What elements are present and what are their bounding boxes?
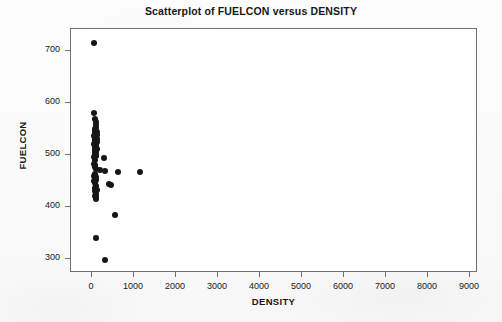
x-axis-tick	[427, 272, 428, 277]
x-axis-tick-label: 6000	[323, 281, 363, 291]
x-axis-tick-label: 8000	[407, 281, 447, 291]
y-axis-tick-label: 700	[24, 44, 60, 54]
x-axis-tick	[469, 272, 470, 277]
x-axis-tick	[175, 272, 176, 277]
x-axis-tick	[385, 272, 386, 277]
x-axis-tick	[259, 272, 260, 277]
y-axis-tick	[65, 50, 70, 51]
y-axis-title: FUELCON	[17, 106, 28, 186]
x-axis-tick	[91, 272, 92, 277]
y-axis-tick	[65, 258, 70, 259]
data-point	[137, 169, 143, 175]
x-axis-tick	[301, 272, 302, 277]
x-axis-tick-label: 4000	[239, 281, 279, 291]
data-points-layer	[70, 28, 477, 272]
scatterplot-figure: Scatterplot of FUELCON versus DENSITY 01…	[0, 0, 502, 322]
data-point	[115, 169, 121, 175]
x-axis-tick	[343, 272, 344, 277]
y-axis-tick-label: 500	[24, 148, 60, 158]
x-axis-title: DENSITY	[70, 296, 477, 307]
data-point	[93, 235, 99, 241]
data-point	[112, 212, 118, 218]
x-axis-tick	[217, 272, 218, 277]
x-axis-tick-label: 5000	[281, 281, 321, 291]
x-axis-tick-label: 7000	[365, 281, 405, 291]
data-point	[91, 40, 97, 46]
data-point	[101, 155, 107, 161]
chart-title: Scatterplot of FUELCON versus DENSITY	[0, 5, 502, 17]
y-axis-tick	[65, 102, 70, 103]
y-axis-tick-label: 400	[24, 200, 60, 210]
y-axis-tick	[65, 154, 70, 155]
x-axis-tick-label: 1000	[113, 281, 153, 291]
y-axis-tick-label: 300	[24, 252, 60, 262]
data-point	[93, 196, 99, 202]
x-axis-tick	[133, 272, 134, 277]
data-point	[102, 257, 108, 263]
x-axis-tick-label: 0	[71, 281, 111, 291]
x-axis-tick-label: 3000	[197, 281, 237, 291]
y-axis-tick	[65, 206, 70, 207]
data-point	[102, 168, 108, 174]
y-axis-tick-label: 600	[24, 96, 60, 106]
data-point	[108, 182, 114, 188]
x-axis-tick-label: 2000	[155, 281, 195, 291]
x-axis-tick-label: 9000	[449, 281, 489, 291]
